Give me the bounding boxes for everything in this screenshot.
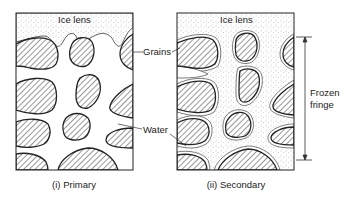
ice-lens-label-secondary: Ice lens — [220, 15, 253, 25]
water-label: Water — [143, 125, 168, 135]
panel-primary — [16, 13, 133, 170]
grains-label: Grains — [143, 47, 171, 57]
frost-heave-diagram — [0, 0, 349, 197]
panel-secondary — [177, 13, 294, 170]
ice-lens-label-primary: Ice lens — [58, 15, 91, 25]
caption-primary: (i) Primary — [44, 180, 104, 190]
frozen-fringe-label-line1: Frozen — [310, 88, 340, 98]
frozen-fringe-label-line2: fringe — [310, 100, 334, 110]
caption-secondary: (ii) Secondary — [198, 180, 274, 190]
